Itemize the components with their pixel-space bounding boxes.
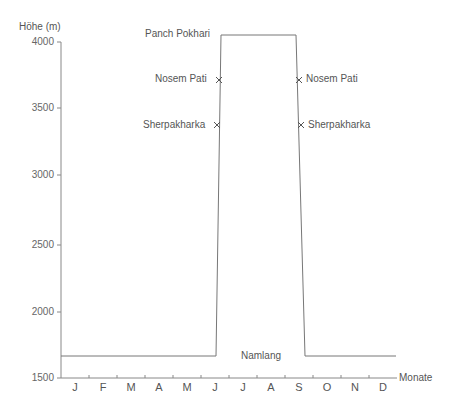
y-tick-1500: 1500: [4, 373, 54, 383]
month-label: D: [373, 382, 393, 393]
annotation-nosem-pati-right: Nosem Pati: [306, 74, 358, 84]
month-label: J: [65, 382, 85, 393]
month-label: J: [205, 382, 225, 393]
marker-nosem-left-icon: [216, 77, 222, 83]
y-tick-3500: 3500: [4, 103, 54, 113]
annotation-nosem-pati-left: Nosem Pati: [155, 74, 207, 84]
y-tick-4000: 4000: [4, 37, 54, 47]
annotation-panch-pokhari: Panch Pokhari: [145, 29, 210, 39]
month-label: M: [121, 382, 141, 393]
annotation-namlang: Namlang: [241, 351, 281, 361]
y-tick-3000: 3000: [4, 170, 54, 180]
altitude-chart: [0, 0, 453, 413]
y-tick-2500: 2500: [4, 240, 54, 250]
month-label: S: [289, 382, 309, 393]
annotation-sherpakharka-left: Sherpakharka: [143, 120, 205, 130]
month-label: N: [345, 382, 365, 393]
y-tick-2000: 2000: [4, 307, 54, 317]
y-axis-title: Höhe (m): [19, 22, 61, 32]
annotation-sherpakharka-right: Sherpakharka: [308, 120, 370, 130]
month-label: O: [317, 382, 337, 393]
month-label: J: [233, 382, 253, 393]
y-ticks: [57, 42, 61, 378]
month-label: F: [93, 382, 113, 393]
x-markers: [214, 77, 304, 128]
month-label: A: [149, 382, 169, 393]
month-label: A: [261, 382, 281, 393]
x-axis-title: Monate: [399, 373, 432, 383]
month-label: M: [177, 382, 197, 393]
